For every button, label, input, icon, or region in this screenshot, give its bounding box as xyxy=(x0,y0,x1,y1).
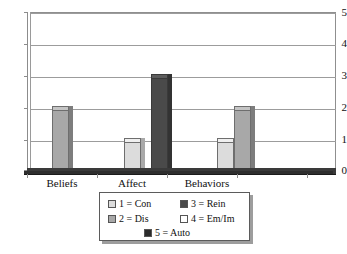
bar-side xyxy=(168,74,172,170)
bar-front xyxy=(52,110,69,174)
bar-front xyxy=(151,78,168,174)
x-tick-mark-4 xyxy=(307,174,308,178)
bar-side xyxy=(251,106,255,170)
legend-swatch-icon-1 xyxy=(108,200,116,208)
legend-label-2: 2 = Dis xyxy=(119,213,149,224)
legend-entry-1: 1 = Con xyxy=(108,198,151,209)
legend-entry-4: 4 = Em/Im xyxy=(180,213,234,224)
legend-label-3: 3 = Rein xyxy=(191,198,226,209)
legend-swatch-icon-3 xyxy=(180,200,188,208)
x-tick-label-affect: Affect xyxy=(97,177,167,189)
legend-entry-3: 3 = Rein xyxy=(180,198,226,209)
gridline-1 xyxy=(31,141,336,142)
plot-area xyxy=(31,12,336,174)
legend-swatch-icon-2 xyxy=(108,215,116,223)
bar-front xyxy=(234,110,251,174)
bar-affect-series3 xyxy=(151,78,168,174)
x-tick-label-behaviors: Behaviors xyxy=(167,177,247,189)
legend-swatch-icon-4 xyxy=(180,215,188,223)
legend-label-4: 4 = Em/Im xyxy=(191,213,234,224)
bar-side xyxy=(141,138,145,170)
y-axis-line xyxy=(27,12,28,174)
legend-label-5: 5 = Auto xyxy=(155,227,190,238)
bar-side xyxy=(69,106,73,170)
legend: 1 = Con 3 = Rein 2 = Dis 4 = Em/Im 5 = A… xyxy=(99,192,250,241)
legend-label-1: 1 = Con xyxy=(119,198,151,209)
chart-floor-edge xyxy=(24,174,336,175)
bar-behaviors-series2 xyxy=(234,110,251,174)
gridline-2 xyxy=(31,109,336,110)
legend-entry-2: 2 = Dis xyxy=(108,213,149,224)
gridline-5 xyxy=(31,13,336,14)
bar-beliefs-series2 xyxy=(52,110,69,174)
legend-swatch-icon-5 xyxy=(144,229,152,237)
gridline-3 xyxy=(31,77,336,78)
gridline-4 xyxy=(31,45,336,46)
bar-chart: 5 4 3 2 1 0 xyxy=(0,0,347,254)
x-tick-label-beliefs: Beliefs xyxy=(27,177,97,189)
legend-entry-5: 5 = Auto xyxy=(144,227,190,238)
